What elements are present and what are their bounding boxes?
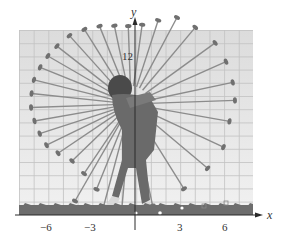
x-tick-3: 3 xyxy=(177,222,183,233)
x-tick-neg6: −6 xyxy=(40,222,52,233)
figure-canvas xyxy=(0,0,288,241)
x-axis-label: x xyxy=(267,209,272,221)
x-tick-6: 6 xyxy=(222,222,228,233)
x-tick-neg3: −3 xyxy=(84,222,96,233)
y-axis-label: y xyxy=(131,6,136,18)
golf-swing-figure: y x 12 −6 −3 3 6 xyxy=(0,0,288,241)
x-axis-arrow-icon xyxy=(255,213,263,218)
y-tick-12: 12 xyxy=(122,51,133,62)
